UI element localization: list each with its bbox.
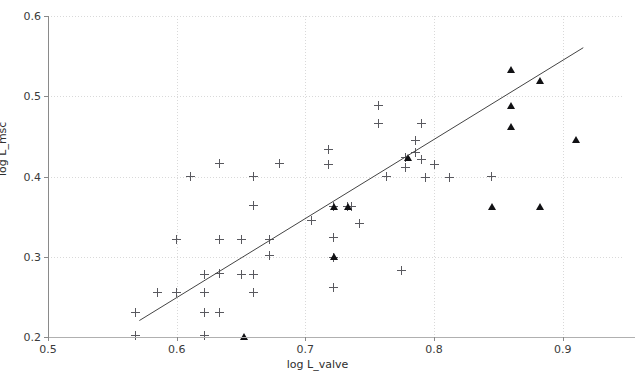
plot-area: [48, 16, 622, 337]
regression-line: [48, 16, 622, 337]
scatter-plot-figure: 0.50.60.70.80.9 0.20.30.40.50.6 log L_va…: [0, 0, 635, 379]
x-axis-spine: [48, 337, 635, 338]
y-axis-label: log L_msc: [0, 122, 9, 176]
x-tick-mark: [563, 337, 564, 341]
y-tick-label: 0.3: [0, 250, 41, 263]
x-axis-label: log L_valve: [0, 358, 635, 371]
x-tick-mark: [305, 337, 306, 341]
x-tick-label: 0.7: [297, 343, 315, 356]
x-tick-mark: [48, 337, 49, 341]
y-tick-label: 0.2: [0, 331, 41, 344]
x-tick-label: 0.6: [168, 343, 186, 356]
y-axis-spine: [48, 16, 49, 337]
y-tick-mark: [44, 96, 48, 97]
x-tick-mark: [434, 337, 435, 341]
x-tick-label: 0.8: [425, 343, 443, 356]
y-tick-label: 0.5: [0, 90, 41, 103]
y-tick-mark: [44, 16, 48, 17]
y-tick-mark: [44, 257, 48, 258]
y-tick-label: 0.6: [0, 10, 41, 23]
y-tick-mark: [44, 337, 48, 338]
x-tick-mark: [177, 337, 178, 341]
y-tick-mark: [44, 177, 48, 178]
x-tick-label: 0.9: [554, 343, 572, 356]
x-tick-label: 0.5: [39, 343, 57, 356]
